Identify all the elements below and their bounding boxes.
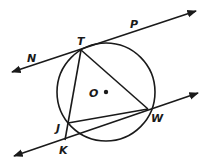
segment-jw: [68, 109, 148, 123]
line-kw: [14, 93, 198, 156]
line-np: [12, 11, 196, 72]
label-j: J: [54, 122, 60, 135]
label-k: K: [59, 144, 69, 157]
segment-tw: [81, 50, 148, 109]
center-dot: [104, 90, 108, 94]
label-w: W: [151, 112, 164, 125]
label-p: P: [130, 18, 138, 31]
label-o: O: [89, 87, 98, 100]
diagram-svg: N P T O J W K: [0, 0, 211, 168]
label-t: T: [77, 35, 86, 48]
segment-tk: [65, 50, 81, 140]
label-n: N: [27, 52, 36, 65]
geometry-diagram: N P T O J W K: [0, 0, 211, 168]
